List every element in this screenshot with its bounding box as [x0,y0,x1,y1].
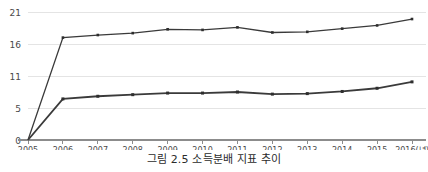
data-point-marker [61,97,64,100]
data-point-marker [131,32,134,35]
data-point-marker [271,93,274,96]
y-axis-tick-label: 5 [15,104,21,114]
y-axis-tick-labels: 05111621 [10,8,22,146]
data-point-marker [306,31,309,34]
series-line-lower-series [28,82,412,140]
data-point-marker [96,95,99,98]
data-point-marker [201,29,204,32]
figure-caption: 그림 2.5 소득분배 지표 추이 [0,150,428,166]
data-point-marker [166,92,169,95]
data-point-marker [131,93,134,96]
series-lines-group [28,19,412,140]
y-axis-tick-label: 21 [10,8,21,18]
data-point-marker [62,36,65,39]
data-point-marker [376,24,379,27]
data-point-marker [236,26,239,29]
series-markers-group [61,18,413,101]
data-point-marker [166,28,169,31]
data-point-marker [236,91,239,94]
line-chart: 05111621 2005200620072008200920102011201… [0,0,428,150]
data-point-marker [201,92,204,95]
data-point-marker [341,27,344,30]
data-point-marker [271,31,274,34]
data-point-marker [411,18,414,21]
x-axis-tickmarks [28,140,412,144]
data-point-marker [97,34,100,37]
chart-plot-area: 05111621 2005200620072008200920102011201… [0,0,428,150]
figure-container: 05111621 2005200620072008200920102011201… [0,0,428,172]
data-point-marker [376,87,379,90]
series-line-upper-series [28,19,412,140]
data-point-marker [306,92,309,95]
data-point-marker [341,90,344,93]
y-axis-tick-label: 11 [10,72,21,82]
data-point-marker [411,80,414,83]
y-axis-tick-label: 16 [10,40,22,50]
